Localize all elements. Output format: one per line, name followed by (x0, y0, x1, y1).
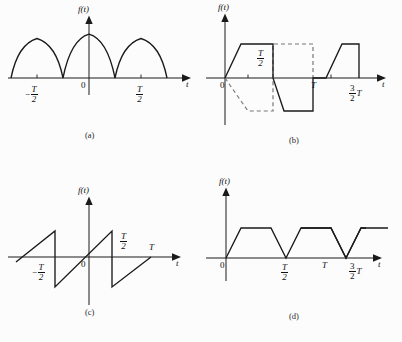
y-axis-label: f(t) (218, 3, 229, 12)
x-axis-label: t (378, 260, 381, 269)
fraction-denominator: 2 (257, 58, 264, 68)
y-axis-label: f(t) (219, 177, 230, 186)
panel-b: f(t) t 0 T2 T 32T (b) (201, 0, 402, 171)
panel-caption: (d) (289, 311, 299, 321)
origin-label: 0 (81, 81, 86, 90)
y-axis-arrowhead (85, 197, 92, 206)
x-tick-label-neg-half-T: −T2 (25, 85, 38, 104)
x-tick-label-three-halves-T: 32T (349, 262, 362, 281)
fraction-suffix-T: T (356, 89, 362, 98)
y-axis-arrowhead (221, 14, 228, 23)
origin-label: 0 (220, 81, 225, 90)
fraction-numerator: T (136, 85, 143, 94)
x-tick-label-T: T (311, 81, 316, 90)
x-tick-label-T: T (149, 243, 154, 252)
panel-b-plot (201, 0, 402, 171)
figure-sheet: f(t) t 0 −T2 T2 (a) (0, 0, 402, 342)
panel-caption: (a) (85, 130, 94, 140)
panel-d: f(t) t 0 T2 T 32T (d) (201, 171, 402, 342)
fraction-denominator: 2 (281, 272, 288, 282)
x-tick-label-half-T: T2 (136, 85, 143, 104)
x-tick-label-T: T (322, 261, 327, 270)
fraction-numerator: T (281, 263, 288, 272)
fraction-denominator: 2 (136, 94, 143, 104)
panel-c-plot (0, 171, 201, 342)
x-axis-label: t (382, 80, 385, 89)
fraction-suffix-T: T (356, 267, 362, 276)
panel-d-plot (201, 171, 402, 342)
inline-label-half-T: T2 (120, 232, 127, 251)
waveform-trapezoid-unipolar (226, 228, 366, 258)
fraction-denominator: 2 (120, 241, 127, 251)
fraction-numerator: T (257, 49, 264, 58)
inline-label-half-T: T2 (257, 49, 264, 68)
y-axis-arrowhead (222, 188, 229, 197)
panel-caption: (c) (85, 307, 94, 317)
x-tick-label-three-halves-T: 32T (349, 84, 362, 103)
fraction-numerator: T (31, 85, 38, 94)
fraction-numerator: T (120, 232, 127, 241)
origin-label: 0 (220, 261, 225, 270)
fraction-numerator: T (38, 263, 45, 272)
panel-a: f(t) t 0 −T2 T2 (a) (0, 0, 201, 171)
fraction-denominator: 2 (38, 272, 45, 282)
y-axis-label: f(t) (78, 5, 89, 14)
y-axis-arrowhead (85, 16, 92, 25)
waveform-trapezoid-unipolar-tail (301, 228, 388, 258)
x-axis-label: t (176, 259, 179, 268)
waveform-dashed-companion-upper (273, 44, 313, 78)
fraction-denominator: 2 (31, 94, 38, 104)
panel-caption: (b) (289, 135, 299, 145)
x-tick-label-half-T: T2 (281, 263, 288, 282)
origin-label: 0 (81, 260, 86, 269)
x-axis-label: t (186, 80, 189, 89)
waveform-dashed-companion (225, 78, 273, 111)
x-tick-label-neg-half-T: −T2 (32, 263, 45, 282)
panel-c: f(t) t 0 −T2 T2 T (c) (0, 171, 201, 342)
y-axis-label: f(t) (78, 186, 89, 195)
